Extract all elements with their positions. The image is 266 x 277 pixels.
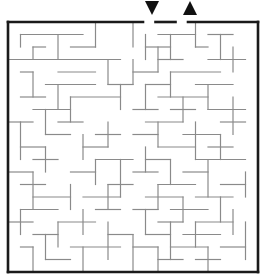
maze-board bbox=[0, 0, 266, 277]
maze-walls bbox=[8, 22, 246, 272]
maze-puzzle bbox=[0, 0, 266, 277]
entrance-arrow-down-icon bbox=[145, 1, 159, 15]
exit-arrow-up-icon bbox=[183, 1, 197, 15]
